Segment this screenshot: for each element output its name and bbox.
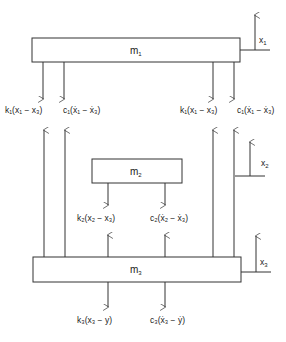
x1-label: x1	[259, 35, 267, 46]
force-label-c3: c₃(ẋ₃ − ẏ)	[150, 315, 185, 325]
displacement-x1: x1	[240, 15, 270, 50]
force-label-c1-left: c₁(ẋ₁ − ẋ₃)	[63, 105, 100, 115]
free-body-diagram: m1 x1 k₁(x₁ − x₃) c₁(ẋ₁ − ẋ₃) k₁(x₁ − x₃…	[0, 0, 286, 342]
force-label-k1-right: k₁(x₁ − x₃)	[180, 105, 217, 115]
force-label-c2: c₂(ẋ₂ − ẋ₃)	[150, 213, 188, 223]
mass-m3: m3	[33, 257, 241, 282]
m1-forces	[43, 62, 234, 99]
mass-m1: m1	[32, 38, 240, 62]
force-label-c1-right: c₁(ẋ₁ − ẋ₃)	[237, 105, 274, 115]
m3-upward-forces-m1	[44, 130, 234, 257]
force-label-k2: k₂(x₂ − x₃)	[77, 213, 115, 223]
displacement-x3: x3	[241, 236, 271, 272]
mass-m2: m2	[92, 159, 182, 183]
x2-label: x2	[261, 158, 269, 169]
force-label-k3: k₃(x₃ − y)	[77, 315, 112, 325]
x3-label: x3	[260, 257, 268, 268]
m3-forces	[108, 282, 165, 307]
displacement-x2: x2	[235, 142, 269, 176]
force-label-k1-left: k₁(x₁ − x₃)	[5, 105, 42, 115]
